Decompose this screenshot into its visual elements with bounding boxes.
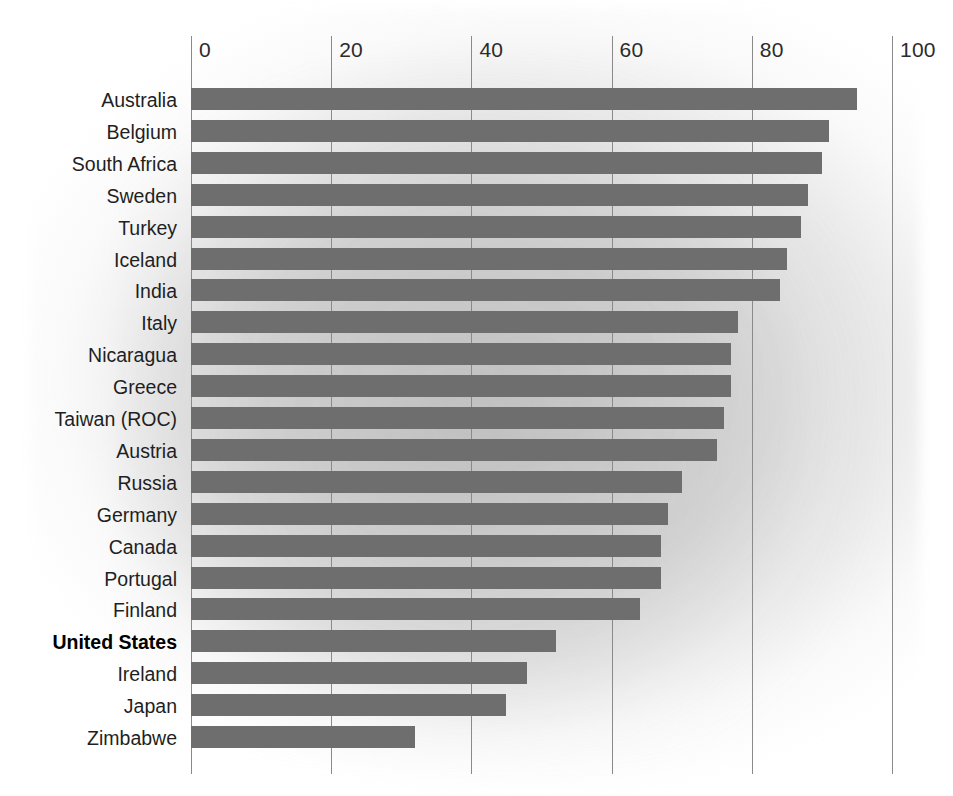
category-label-nicaragua: Nicaragua xyxy=(0,346,177,366)
bar-finland xyxy=(191,598,640,620)
bar-portugal xyxy=(191,567,661,589)
category-label-germany: Germany xyxy=(0,506,177,526)
bar-russia xyxy=(191,471,682,493)
category-label-italy: Italy xyxy=(0,314,177,334)
category-label-taiwan-roc: Taiwan (ROC) xyxy=(0,410,177,430)
category-label-ireland: Ireland xyxy=(0,665,177,685)
bar-austria xyxy=(191,439,717,461)
x-tick-label-20: 20 xyxy=(339,38,363,62)
bar-taiwan-roc xyxy=(191,407,724,429)
x-tick-label-80: 80 xyxy=(760,38,784,62)
bar-turkey xyxy=(191,216,801,238)
category-label-canada: Canada xyxy=(0,538,177,558)
category-label-portugal: Portugal xyxy=(0,570,177,590)
bar-zimbabwe xyxy=(191,726,415,748)
category-label-finland: Finland xyxy=(0,601,177,621)
x-tick-label-40: 40 xyxy=(479,38,503,62)
bar-canada xyxy=(191,535,661,557)
category-label-iceland: Iceland xyxy=(0,251,177,271)
x-tick-label-60: 60 xyxy=(620,38,644,62)
category-label-turkey: Turkey xyxy=(0,219,177,239)
bar-australia xyxy=(191,88,857,110)
gridline-60 xyxy=(612,36,613,774)
bar-nicaragua xyxy=(191,343,731,365)
gridline-80 xyxy=(752,36,753,774)
category-label-united-states: United States xyxy=(0,633,177,653)
x-tick-label-0: 0 xyxy=(199,38,211,62)
bar-ireland xyxy=(191,662,527,684)
bar-south-africa xyxy=(191,152,822,174)
category-label-south-africa: South Africa xyxy=(0,155,177,175)
plot-area: 020406080100 AustraliaBelgiumSouth Afric… xyxy=(0,0,953,796)
bar-india xyxy=(191,279,780,301)
category-label-austria: Austria xyxy=(0,442,177,462)
bar-united-states xyxy=(191,630,556,652)
bar-iceland xyxy=(191,248,787,270)
category-label-sweden: Sweden xyxy=(0,187,177,207)
category-label-australia: Australia xyxy=(0,91,177,111)
gridline-100 xyxy=(892,36,893,774)
bar-belgium xyxy=(191,120,829,142)
category-label-greece: Greece xyxy=(0,378,177,398)
bar-japan xyxy=(191,694,506,716)
category-label-zimbabwe: Zimbabwe xyxy=(0,729,177,749)
x-tick-label-100: 100 xyxy=(900,38,936,62)
category-label-russia: Russia xyxy=(0,474,177,494)
bar-chart-figure: 020406080100 AustraliaBelgiumSouth Afric… xyxy=(0,0,953,796)
category-label-belgium: Belgium xyxy=(0,123,177,143)
category-label-japan: Japan xyxy=(0,697,177,717)
bar-italy xyxy=(191,311,738,333)
bar-sweden xyxy=(191,184,808,206)
category-label-india: India xyxy=(0,282,177,302)
bar-germany xyxy=(191,503,668,525)
bar-greece xyxy=(191,375,731,397)
